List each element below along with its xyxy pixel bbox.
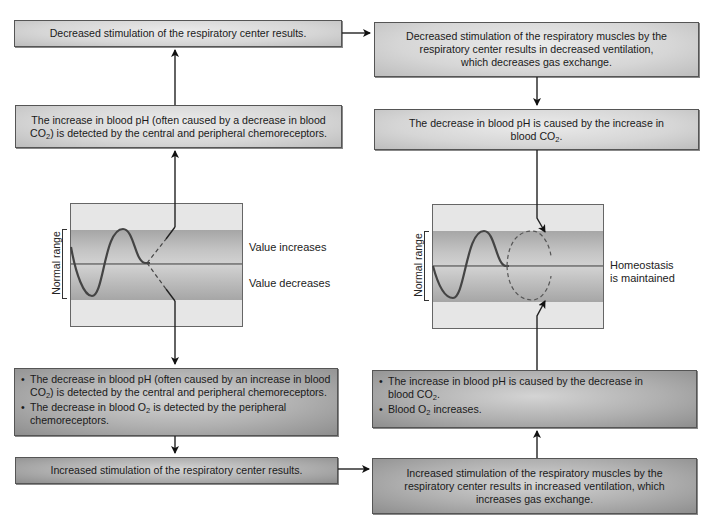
- box-ph-increase-caused: The increase in blood pH is caused by th…: [372, 370, 697, 428]
- box-decreased-ventilation: Decreased stimulation of the respiratory…: [374, 22, 699, 77]
- box-increased-center-stimulation: Increased stimulation of the respiratory…: [15, 457, 338, 484]
- box-text: The decrease in blood pH is caused by th…: [383, 117, 690, 143]
- bullet-list: The decrease in blood pH (often caused b…: [21, 373, 331, 429]
- normal-range-band-upper: [433, 231, 603, 266]
- box-text: Decreased stimulation of the respiratory…: [50, 27, 307, 40]
- normal-range-band-lower: [433, 267, 603, 302]
- bullet-item: The decrease in blood O2 is detected by …: [21, 401, 331, 426]
- box-text: The increase in blood pH (often caused b…: [30, 114, 327, 140]
- label-homeostasis: Homeostasis is maintained: [610, 259, 675, 285]
- normal-range-bracket: [62, 229, 67, 299]
- box-text: Increased stimulation of the respiratory…: [381, 467, 688, 506]
- graph-imbalance: [70, 203, 243, 327]
- normal-range-label: Normal range: [412, 229, 424, 301]
- graph-homeostasis: [432, 204, 604, 329]
- normal-range-band-upper: [71, 230, 242, 264]
- box-ph-increase-detected: The increase in blood pH (often caused b…: [15, 105, 342, 148]
- normal-range-label: Normal range: [50, 227, 62, 299]
- normal-range-bracket: [424, 231, 429, 301]
- box-increased-ventilation: Increased stimulation of the respiratory…: [372, 458, 697, 514]
- label-value-increases: Value increases: [249, 241, 326, 253]
- bullet-item: The increase in blood pH is caused by th…: [379, 375, 670, 400]
- box-text: Decreased stimulation of the respiratory…: [383, 30, 690, 69]
- box-ph-decrease-caused: The decrease in blood pH is caused by th…: [374, 109, 699, 150]
- bullet-item: The decrease in blood pH (often caused b…: [21, 373, 331, 398]
- box-text: Increased stimulation of the respiratory…: [50, 464, 302, 477]
- box-ph-decrease-detected: The decrease in blood pH (often caused b…: [14, 368, 338, 436]
- label-value-decreases: Value decreases: [249, 277, 330, 289]
- bullet-item: Blood O2 increases.: [379, 403, 670, 416]
- normal-range-band-lower: [71, 265, 242, 300]
- bullet-list: The increase in blood pH is caused by th…: [379, 375, 690, 419]
- box-decreased-center-stimulation: Decreased stimulation of the respiratory…: [14, 20, 342, 47]
